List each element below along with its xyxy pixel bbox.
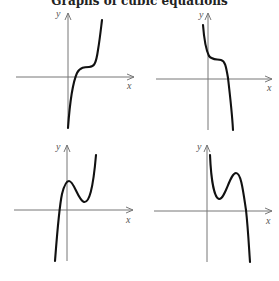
x-axis-label: x <box>126 80 132 91</box>
y-axis-label: y <box>196 141 202 152</box>
y-axis-label: y <box>198 9 204 20</box>
cubic-graphs-figure: y x y x y x y x <box>0 0 279 281</box>
x-axis-label: x <box>265 215 271 226</box>
y-axis-label: y <box>55 141 61 152</box>
panel-bottom-left: y x <box>14 141 133 261</box>
cubic-curve <box>210 155 250 262</box>
cubic-curve <box>68 20 102 128</box>
x-axis-label: x <box>125 214 131 225</box>
y-axis-label: y <box>55 8 61 19</box>
panel-bottom-right: y x <box>154 141 272 262</box>
x-axis-label: x <box>266 82 272 93</box>
panel-top-left: y x <box>16 8 134 128</box>
panel-top-right: y x <box>156 9 272 130</box>
cubic-curve <box>55 155 96 261</box>
